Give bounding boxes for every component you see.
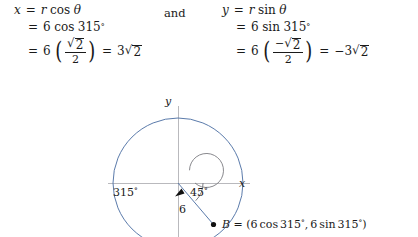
and-connector: and (164, 6, 186, 20)
sin-function: sin (319, 218, 335, 231)
equals-sign: = (236, 45, 246, 57)
equals-sign: = (28, 21, 38, 33)
radical-sign: √ (352, 44, 360, 58)
result-radical: √ 2 (352, 44, 369, 58)
polar-circle-diagram: y x 315° 45° 6 B=(6cos315°,6sin315°) (0, 92, 418, 237)
point-b-label: B=(6cos315°,6sin315°) (221, 218, 367, 232)
radical-expression: √ 2 (284, 37, 301, 51)
fraction-root-two-over-two: √ 2 2 (65, 37, 86, 65)
radicand: 2 (75, 38, 85, 51)
equals-sign: = (234, 218, 243, 231)
fraction-numerator: √ 2 (65, 37, 86, 52)
degree-symbol: ° (204, 186, 208, 195)
fraction-numerator: − √ 2 (273, 37, 304, 52)
theta-symbol: θ (74, 4, 81, 16)
degree-symbol: ° (134, 186, 138, 195)
equals-sign: = (236, 21, 246, 33)
paren-close: ) (362, 218, 366, 231)
coefficient-six: 6 (43, 21, 51, 33)
paren-close: ) (89, 41, 96, 61)
angle-label-45: 45° (190, 186, 208, 200)
equation-x-line-2: = 6 cos 315 ° (28, 21, 142, 33)
cos-function: cos (54, 21, 74, 33)
cos-function: cos (50, 4, 70, 16)
radicand: 2 (132, 45, 142, 58)
y-variable: y (222, 4, 229, 16)
angle-315-value: 315 (113, 186, 134, 199)
angle-x: 315 (280, 218, 301, 231)
radicand: 2 (360, 45, 370, 58)
sin-function: sin (262, 21, 280, 33)
y-axis-label: y (164, 95, 172, 108)
point-b-dot (211, 222, 216, 227)
cos-function: cos (260, 218, 279, 231)
equals-sign: = (28, 45, 38, 57)
angle-sweep-arc-315 (190, 153, 224, 187)
coefficient-six: 6 (251, 21, 259, 33)
radius-length-label: 6 (179, 203, 186, 216)
negative-sign: − (275, 37, 284, 50)
coef-x: 6 (251, 218, 258, 231)
coefficient-six: 6 (251, 45, 259, 57)
angle-value: 315 (78, 21, 101, 33)
fraction-neg-root-two-over-two: − √ 2 2 (273, 37, 304, 65)
equals-sign: = (26, 4, 36, 16)
radical-sign: √ (125, 44, 133, 58)
equation-y-line-1: y = r sin θ (222, 4, 369, 16)
r-variable: r (249, 4, 255, 16)
radicand: 2 (292, 38, 302, 51)
equation-y-line-3: = 6 ( − √ 2 2 ) = − 3 √ 2 (236, 37, 369, 65)
coef-y: 6 (310, 218, 317, 231)
radical-expression: √ 2 (67, 37, 84, 51)
x-variable: x (14, 4, 21, 16)
sin-function: sin (258, 4, 276, 16)
result-negative-sign: − (334, 45, 344, 57)
angle-label-315: 315° (113, 186, 138, 200)
x-axis-label: x (239, 177, 246, 190)
fraction-denominator: 2 (70, 53, 81, 65)
equation-block-x: x = r cos θ = 6 cos 315 ° = 6 ( √ 2 (14, 4, 142, 65)
angle-value: 315 (283, 21, 306, 33)
paren-open: ( (264, 41, 271, 61)
equation-x-line-3: = 6 ( √ 2 2 ) = 3 √ 2 (28, 37, 142, 65)
equation-block-y: y = r sin θ = 6 sin 315 ° = 6 ( − √ 2 (222, 4, 369, 65)
radical-sign: √ (67, 37, 75, 51)
equals-sign: = (234, 4, 244, 16)
equation-y-line-2: = 6 sin 315 ° (236, 21, 369, 33)
r-variable: r (41, 4, 47, 16)
angle-45-value: 45 (190, 186, 204, 199)
comma: , (305, 218, 309, 231)
equals-sign-2: = (319, 45, 329, 57)
theta-symbol: θ (279, 4, 286, 16)
point-b-name: B (221, 218, 230, 231)
fraction-denominator: 2 (283, 53, 294, 65)
result-radical: √ 2 (125, 44, 142, 58)
radical-sign: √ (284, 37, 292, 51)
equals-sign-2: = (102, 45, 112, 57)
coefficient-six: 6 (43, 45, 51, 57)
result-coefficient: 3 (117, 45, 125, 57)
paren-open: ( (56, 41, 63, 61)
equation-x-line-1: x = r cos θ (14, 4, 142, 16)
result-coefficient: 3 (344, 45, 352, 57)
paren-close: ) (306, 41, 313, 61)
angle-y: 315 (338, 218, 359, 231)
